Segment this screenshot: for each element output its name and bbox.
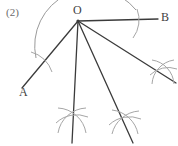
point-label-o: O (73, 4, 82, 16)
angle-construction-drawing (0, 0, 178, 146)
point-label-a: A (19, 86, 28, 98)
ray-ob (78, 19, 158, 21)
cross-mark-lower-middle (109, 110, 141, 134)
figure-index-label: (2) (6, 7, 19, 18)
point-label-b: B (161, 11, 169, 23)
construction-ray-1 (72, 21, 78, 143)
cross-mark-lower-left (56, 108, 88, 133)
intersection-arc-right (133, 9, 139, 38)
construction-ray-2 (78, 21, 133, 143)
ray-oa (22, 21, 78, 88)
main-compass-arc (35, 0, 136, 58)
geometry-figure: (2) O B A (0, 0, 178, 146)
construction-ray-3 (78, 21, 176, 83)
vertex-point-o (76, 19, 79, 22)
